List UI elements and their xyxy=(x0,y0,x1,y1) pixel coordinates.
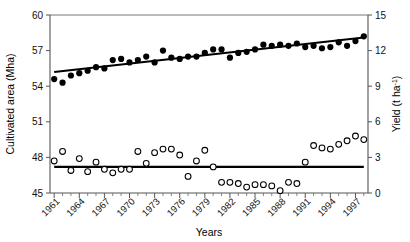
right-axis-title: Yield (t ha-1) xyxy=(390,76,402,133)
data-point-yield xyxy=(168,146,174,152)
data-point-cultivated-area xyxy=(302,44,308,50)
data-point-cultivated-area xyxy=(185,53,191,59)
x-tick-label: 1991 xyxy=(290,196,313,219)
left-tick-label: 60 xyxy=(32,10,44,21)
data-point-yield xyxy=(260,182,266,188)
x-tick-label: 1997 xyxy=(340,196,363,219)
data-point-yield xyxy=(118,166,124,172)
data-point-yield xyxy=(110,170,116,176)
series-cultivated-area-points xyxy=(51,33,367,85)
data-point-cultivated-area xyxy=(361,33,367,39)
data-point-cultivated-area xyxy=(93,64,99,70)
data-point-cultivated-area xyxy=(336,39,342,45)
data-point-yield xyxy=(336,141,342,147)
x-tick-label: 1967 xyxy=(89,196,112,219)
data-point-cultivated-area xyxy=(235,50,241,56)
right-axis-title-tail: ) xyxy=(390,76,402,80)
data-point-yield xyxy=(244,184,250,190)
scatter-plot-svg: 454851545760 03691215 196119641967197019… xyxy=(0,0,410,242)
left-tick-label: 45 xyxy=(32,188,44,199)
data-point-yield xyxy=(135,149,141,155)
right-tick-label: 0 xyxy=(375,188,381,199)
data-point-cultivated-area xyxy=(110,57,116,63)
data-point-cultivated-area xyxy=(218,46,224,52)
left-tick-label: 54 xyxy=(32,81,44,92)
data-point-cultivated-area xyxy=(101,65,107,71)
x-axis-title: Years xyxy=(196,226,222,238)
data-point-cultivated-area xyxy=(126,59,132,65)
data-point-yield xyxy=(76,156,82,162)
data-point-cultivated-area xyxy=(277,42,283,48)
data-point-yield xyxy=(302,159,308,165)
x-tick-label: 1982 xyxy=(215,196,238,219)
data-point-cultivated-area xyxy=(244,49,250,55)
data-point-yield xyxy=(93,159,99,165)
data-point-yield xyxy=(353,133,359,139)
data-point-yield xyxy=(160,146,166,152)
data-point-yield xyxy=(68,168,74,174)
data-point-cultivated-area xyxy=(352,38,358,44)
data-point-yield xyxy=(127,166,133,172)
data-point-yield xyxy=(143,160,149,166)
x-tick-label: 1979 xyxy=(190,196,213,219)
data-point-yield xyxy=(361,137,367,143)
x-tick-label: 1994 xyxy=(315,196,338,219)
data-point-cultivated-area xyxy=(76,70,82,76)
data-point-yield xyxy=(219,179,225,185)
data-point-cultivated-area xyxy=(269,43,275,49)
data-point-cultivated-area xyxy=(319,45,325,51)
trend-line-cultivated-area xyxy=(54,38,364,72)
data-point-cultivated-area xyxy=(177,56,183,62)
data-point-yield xyxy=(311,143,317,149)
right-tick-label: 6 xyxy=(375,116,381,127)
data-point-yield xyxy=(210,164,216,170)
left-tick-label: 51 xyxy=(32,116,44,127)
left-axis-title: Cultivated area (Mha) xyxy=(4,54,16,155)
data-point-cultivated-area xyxy=(160,48,166,54)
data-point-cultivated-area xyxy=(51,76,57,82)
data-point-yield xyxy=(277,188,283,194)
data-point-yield xyxy=(185,173,191,179)
data-point-yield xyxy=(101,166,107,172)
data-point-cultivated-area xyxy=(152,59,158,65)
right-axis-ticks: 03691215 xyxy=(368,10,387,199)
trend-lines xyxy=(54,38,364,167)
data-point-cultivated-area xyxy=(168,55,174,61)
right-tick-label: 12 xyxy=(375,45,387,56)
x-axis-ticks: 1961196419671970197319761979198219851988… xyxy=(39,193,363,218)
data-point-cultivated-area xyxy=(252,46,258,52)
left-axis-ticks: 454851545760 xyxy=(32,10,50,199)
right-tick-label: 15 xyxy=(375,10,387,21)
data-point-yield xyxy=(51,158,57,164)
x-tick-label: 1973 xyxy=(139,196,162,219)
data-point-cultivated-area xyxy=(202,50,208,56)
data-point-yield xyxy=(319,145,325,151)
data-point-yield xyxy=(294,181,300,187)
right-axis-title-main: Yield (t ha xyxy=(390,85,402,132)
left-tick-label: 57 xyxy=(32,45,44,56)
data-point-cultivated-area xyxy=(260,42,266,48)
data-point-cultivated-area xyxy=(85,68,91,74)
data-point-cultivated-area xyxy=(227,55,233,61)
data-point-yield xyxy=(85,169,91,175)
data-point-yield xyxy=(286,179,292,185)
data-point-cultivated-area xyxy=(311,43,317,49)
x-tick-label: 1970 xyxy=(114,196,137,219)
left-tick-label: 48 xyxy=(32,152,44,163)
data-point-yield xyxy=(327,146,333,152)
data-point-yield xyxy=(194,158,200,164)
right-tick-label: 9 xyxy=(375,81,381,92)
data-point-yield xyxy=(177,152,183,158)
data-point-yield xyxy=(152,150,158,156)
data-point-yield xyxy=(344,138,350,144)
data-point-cultivated-area xyxy=(344,43,350,49)
data-point-yield xyxy=(60,149,66,155)
data-point-cultivated-area xyxy=(59,80,65,86)
x-tick-label: 1976 xyxy=(164,196,187,219)
data-point-cultivated-area xyxy=(68,72,74,78)
x-tick-label: 1961 xyxy=(39,196,62,219)
data-point-cultivated-area xyxy=(294,40,300,46)
x-tick-label: 1964 xyxy=(64,196,87,219)
x-tick-label: 1985 xyxy=(240,196,263,219)
data-point-yield xyxy=(227,179,233,185)
